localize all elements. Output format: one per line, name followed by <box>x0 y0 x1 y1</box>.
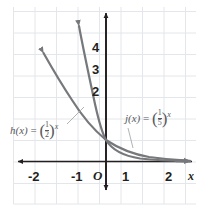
x-tick-neg2: -2 <box>28 170 40 183</box>
x-tick-neg1: -1 <box>71 170 83 183</box>
function-label-j-name: j(x) <box>125 112 140 124</box>
function-label-h-name: h(x) <box>10 124 28 136</box>
exponential-decay-graph: 4 3 2 -2 -1 O 1 2 x h(x) = (12)x j(x) = … <box>0 0 209 212</box>
function-label-j-equals: = <box>143 112 149 124</box>
x-axis-letter: x <box>188 170 194 182</box>
curve-h <box>44 53 188 161</box>
exponent-j: x <box>167 110 171 119</box>
y-tick-4: 4 <box>92 41 99 54</box>
y-tick-3: 3 <box>92 63 99 76</box>
axis-lines <box>18 13 192 190</box>
function-label-j: j(x) = (15)x <box>125 110 171 128</box>
exponent-h: x <box>55 122 59 131</box>
right-paren-h: ) <box>49 122 55 139</box>
function-label-h-equals: = <box>30 124 36 136</box>
y-tick-2: 2 <box>92 85 99 98</box>
x-tick-1: 1 <box>122 170 129 183</box>
right-paren-j: ) <box>162 110 168 127</box>
leader-line-j <box>128 128 133 148</box>
function-label-h: h(x) = (12)x <box>10 122 58 140</box>
origin-label: O <box>93 169 102 182</box>
x-tick-2: 2 <box>165 170 172 183</box>
